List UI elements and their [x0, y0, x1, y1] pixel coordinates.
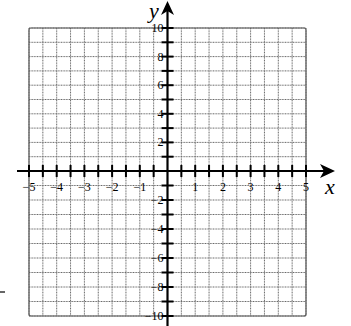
y-tick-label: −4: [151, 222, 164, 236]
coordinate-plane: −5−4−3−2−112345108642−2−4−6−8−10 x y: [0, 0, 351, 326]
y-tick-label: 10: [152, 21, 164, 35]
y-tick-label: 4: [158, 107, 164, 121]
y-tick-label: −8: [151, 280, 164, 294]
x-tick-label: 3: [248, 180, 254, 194]
y-tick-label: 6: [158, 78, 164, 92]
x-tick-label: −1: [133, 180, 146, 194]
y-tick-label: 8: [158, 50, 164, 64]
x-tick-label: −2: [106, 180, 119, 194]
x-tick-label: −5: [23, 180, 36, 194]
axes: [17, 1, 335, 326]
x-tick-label: −4: [50, 180, 63, 194]
y-tick-label: −6: [151, 251, 164, 265]
y-tick-label: 2: [158, 135, 164, 149]
y-axis-label: y: [147, 0, 159, 23]
x-axis-label: x: [324, 174, 335, 199]
x-tick-label: 1: [192, 180, 198, 194]
y-tick-label: −10: [145, 309, 164, 323]
x-tick-label: −3: [78, 180, 91, 194]
x-tick-label: 4: [275, 180, 281, 194]
y-tick-label: −2: [151, 193, 164, 207]
x-tick-label: 5: [303, 180, 309, 194]
x-tick-label: 2: [220, 180, 226, 194]
